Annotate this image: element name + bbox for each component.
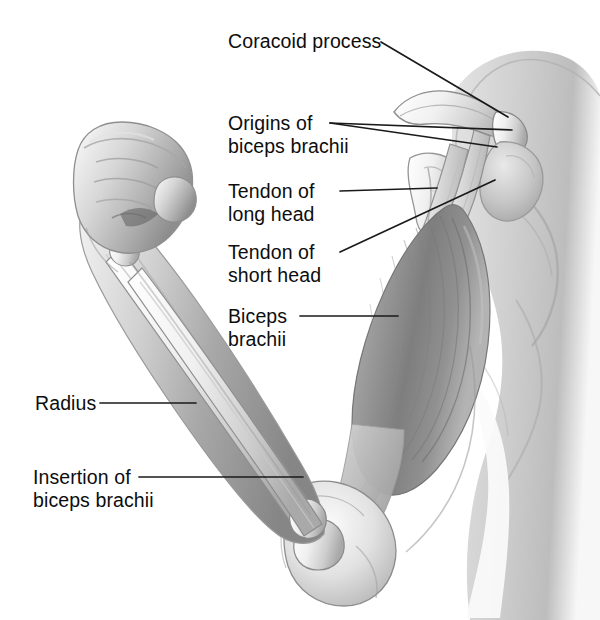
label-tendon-of-long-head: Tendon of long head (228, 180, 315, 226)
anatomy-illustration (0, 0, 600, 620)
label-radius: Radius (35, 392, 96, 415)
label-coracoid-process: Coracoid process (228, 30, 381, 53)
label-tendon-of-short-head: Tendon of short head (228, 241, 321, 287)
anatomy-figure: Coracoid processOrigins of biceps brachi… (0, 0, 600, 620)
label-insertion-of-biceps-brachii: Insertion of biceps brachii (33, 466, 154, 512)
label-origins-of-biceps-brachii: Origins of biceps brachii (228, 112, 349, 158)
label-biceps-brachii: Biceps brachii (228, 305, 287, 351)
